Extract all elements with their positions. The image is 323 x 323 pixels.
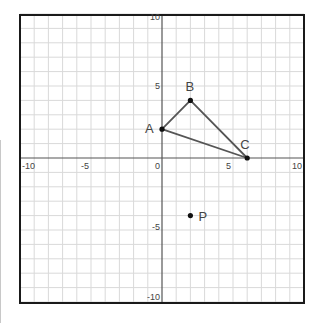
point-label-c: C xyxy=(240,137,249,152)
x-tick-label: 10 xyxy=(292,161,302,171)
y-tick-label: 10 xyxy=(150,12,160,22)
point-label-a: A xyxy=(145,121,154,136)
point-label-p: P xyxy=(198,209,207,224)
x-tick-label: 5 xyxy=(226,161,231,171)
point-label-b: B xyxy=(185,79,194,94)
point-p xyxy=(188,213,193,218)
y-tick-label: 5 xyxy=(155,81,160,91)
point-b xyxy=(188,98,193,103)
x-tick-label: -5 xyxy=(81,161,89,171)
point-c xyxy=(245,155,250,160)
coordinate-plane-diagram: -10-50510105-5-10ABCP xyxy=(0,0,323,323)
y-tick-label: -10 xyxy=(147,292,160,302)
left-edge-line xyxy=(0,140,1,323)
y-tick-label: -5 xyxy=(152,222,160,232)
point-a xyxy=(159,127,164,132)
x-tick-label: -10 xyxy=(22,161,35,171)
x-tick-label: 0 xyxy=(155,161,160,171)
coordinate-plane: -10-50510105-5-10ABCP xyxy=(0,0,323,323)
